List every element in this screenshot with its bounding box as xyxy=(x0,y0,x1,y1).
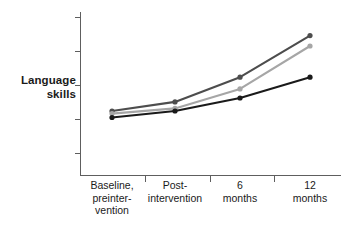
data-point-series-3-black-0 xyxy=(109,115,114,120)
data-point-series-3-black-3 xyxy=(307,75,312,80)
x-axis-label-3: 12months xyxy=(267,179,352,204)
y-axis-title-line-1: skills xyxy=(0,88,76,102)
data-point-series-3-black-1 xyxy=(172,108,177,113)
x-axis-label-0-line-2: vention xyxy=(69,204,155,217)
data-point-series-3-black-2 xyxy=(237,95,242,100)
y-axis-title-line-0: Language xyxy=(0,74,76,88)
chart-container: Languageskills Baseline,preinter-vention… xyxy=(0,0,352,228)
data-series-group xyxy=(109,33,312,120)
data-point-series-2-light-gray-3 xyxy=(307,43,312,48)
axes-group xyxy=(81,12,342,176)
data-point-series-1-dark-gray-1 xyxy=(172,99,177,104)
data-point-series-1-dark-gray-2 xyxy=(237,75,242,80)
y-axis-title: Languageskills xyxy=(0,74,76,101)
x-axis-label-3-line-0: 12 xyxy=(267,179,352,192)
data-point-series-2-light-gray-2 xyxy=(237,86,242,91)
x-axis-category-labels: Baseline,preinter-ventionPost-interventi… xyxy=(80,179,342,227)
series-line-series-1-dark-gray xyxy=(112,36,310,111)
x-axis-label-3-line-1: months xyxy=(267,192,352,205)
data-point-series-1-dark-gray-3 xyxy=(307,33,312,38)
